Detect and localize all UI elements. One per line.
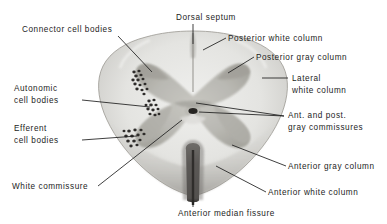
label-dorsal-septum: Dorsal septum bbox=[176, 12, 236, 24]
label-anterior-median-fissure: Anterior median fissure bbox=[178, 208, 275, 220]
label-lateral-white-column-line1: Lateral bbox=[292, 73, 321, 85]
label-ant-post-gray-commissures-line2: gray commissures bbox=[288, 122, 363, 134]
anterior-median-fissure-group bbox=[182, 140, 204, 205]
spinal-cord-figure: Connector cell bodies Dorsal septum Post… bbox=[0, 0, 387, 224]
label-anterior-gray-column: Anterior gray column bbox=[288, 161, 375, 173]
label-efferent-cell-bodies-line2: cell bodies bbox=[14, 135, 59, 147]
label-posterior-white-column: Posterior white column bbox=[228, 33, 323, 45]
label-efferent-cell-bodies-line1: Efferent bbox=[14, 123, 47, 135]
label-connector-cell-bodies: Connector cell bodies bbox=[22, 24, 112, 36]
label-autonomic-cell-bodies-line2: cell bodies bbox=[14, 95, 59, 107]
label-anterior-white-column: Anterior white column bbox=[268, 187, 358, 199]
central-canal bbox=[188, 108, 197, 114]
label-ant-post-gray-commissures-line1: Ant. and post. bbox=[288, 110, 346, 122]
label-white-commissure: White commissure bbox=[12, 181, 88, 193]
label-autonomic-cell-bodies-line1: Autonomic bbox=[14, 83, 58, 95]
label-lateral-white-column-line2: white column bbox=[292, 85, 346, 97]
label-posterior-gray-column: Posterior gray column bbox=[256, 52, 347, 64]
